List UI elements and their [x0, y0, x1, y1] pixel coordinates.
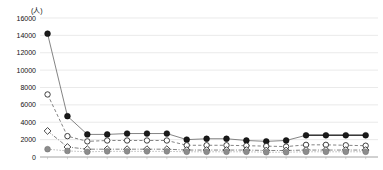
data-point [144, 131, 150, 137]
data-point [184, 149, 190, 155]
data-point [164, 131, 170, 137]
y-axis-tick-label: 10000 [17, 67, 37, 74]
data-point [204, 136, 210, 142]
data-point [283, 149, 289, 155]
y-axis-tick-label: 14000 [17, 32, 37, 39]
data-point [164, 148, 170, 154]
data-point [144, 148, 150, 154]
chart-canvas: 0200040006000800010000120001400016000 [0, 0, 383, 170]
data-point [243, 149, 249, 155]
data-point [104, 148, 110, 154]
data-point [303, 132, 309, 138]
data-point [323, 132, 329, 138]
y-axis-tick-label: 16000 [17, 15, 37, 22]
data-point [45, 31, 51, 37]
data-point [84, 149, 90, 155]
y-axis-tick-label: 12000 [17, 49, 37, 56]
data-point [343, 132, 349, 138]
data-point [204, 149, 210, 155]
data-point [283, 138, 289, 144]
data-point [84, 132, 90, 138]
data-point [65, 113, 71, 119]
data-point [184, 137, 190, 143]
data-point [224, 136, 230, 142]
data-point [323, 149, 329, 155]
y-axis-tick-label: 6000 [20, 101, 36, 108]
data-point [363, 132, 369, 138]
data-point [45, 146, 51, 152]
data-point [45, 92, 50, 97]
data-point [224, 149, 230, 155]
data-point [105, 138, 110, 143]
data-point [85, 139, 90, 144]
data-point [65, 148, 71, 154]
data-point [303, 149, 309, 155]
data-point [243, 138, 249, 144]
data-point [65, 133, 70, 138]
y-axis-tick-label: 2000 [20, 136, 36, 143]
data-point [144, 138, 149, 143]
y-axis-tick-label: 8000 [20, 84, 36, 91]
data-point [124, 148, 130, 154]
data-point [124, 131, 130, 137]
data-point [164, 138, 169, 143]
data-point [263, 149, 269, 155]
data-point [343, 149, 349, 155]
line-chart: (人) 020004000600080001000012000140001600… [0, 0, 383, 170]
data-point [104, 132, 110, 138]
y-axis-tick-label: 0 [32, 154, 36, 161]
data-point [124, 138, 129, 143]
y-axis-tick-label: 4000 [20, 119, 36, 126]
data-point [363, 149, 369, 155]
y-axis-unit-label: (人) [31, 5, 43, 15]
